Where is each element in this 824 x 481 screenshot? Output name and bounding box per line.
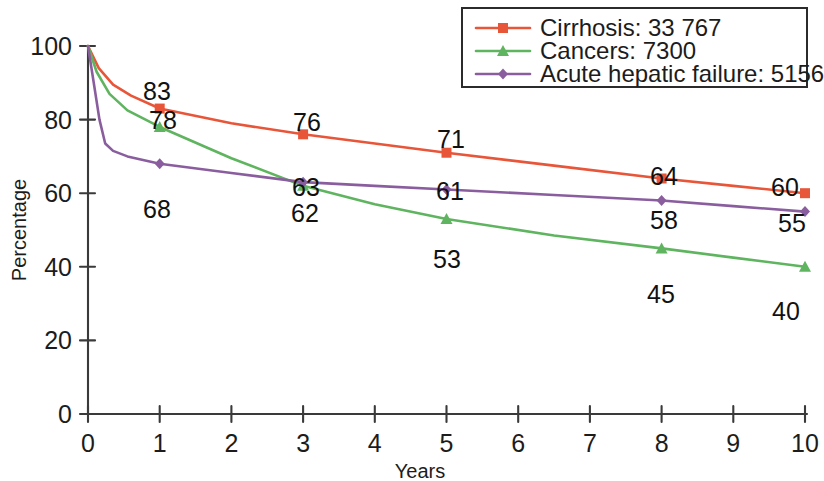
x-tick-label: 0 bbox=[81, 429, 95, 457]
data-label-ahf-1: 68 bbox=[143, 195, 171, 223]
chart-legend: Cirrhosis: 33 767Cancers: 7300Acute hepa… bbox=[462, 8, 824, 87]
data-label-cancers-10: 40 bbox=[772, 297, 800, 325]
chart-figure: 020406080100 Percentage 012345678910 Yea… bbox=[0, 0, 824, 481]
x-axis-title: Years bbox=[395, 460, 445, 481]
series-marker-diamond bbox=[155, 158, 165, 169]
data-label-ahf-10: 55 bbox=[778, 209, 806, 237]
y-tick-label: 100 bbox=[30, 32, 72, 60]
x-tick-label: 7 bbox=[583, 429, 597, 457]
data-label-cancers-3: 62 bbox=[291, 199, 319, 227]
x-tick-label: 10 bbox=[791, 429, 819, 457]
series-marker-square bbox=[498, 23, 508, 33]
data-label-cirrhosis-3: 76 bbox=[293, 108, 321, 136]
x-tick-label: 4 bbox=[368, 429, 382, 457]
data-label-cancers-5: 53 bbox=[433, 245, 461, 273]
data-label-cirrhosis-10: 60 bbox=[771, 173, 799, 201]
y-axis-group: 020406080100 Percentage bbox=[8, 32, 95, 428]
series-marker-square bbox=[800, 188, 810, 198]
x-tick-label: 5 bbox=[440, 429, 454, 457]
x-tick-label: 9 bbox=[726, 429, 740, 457]
data-label-layer: 837671646078625345406863615855 bbox=[143, 77, 806, 325]
data-label-ahf-3: 63 bbox=[292, 173, 320, 201]
y-tick-label: 40 bbox=[44, 253, 72, 281]
data-label-ahf-8: 58 bbox=[650, 206, 678, 234]
data-label-cirrhosis-5: 71 bbox=[437, 125, 465, 153]
x-tick-label: 1 bbox=[153, 429, 167, 457]
x-axis-group: 012345678910 Years bbox=[81, 406, 819, 481]
data-label-cancers-1: 78 bbox=[149, 106, 177, 134]
data-label-ahf-5: 61 bbox=[436, 177, 464, 205]
y-tick-label: 60 bbox=[44, 179, 72, 207]
x-tick-label: 6 bbox=[511, 429, 525, 457]
data-label-cirrhosis-1: 83 bbox=[143, 77, 171, 105]
y-axis-title: Percentage bbox=[8, 179, 30, 281]
x-tick-label: 3 bbox=[296, 429, 310, 457]
data-label-cirrhosis-8: 64 bbox=[650, 162, 678, 190]
series-marker-diamond bbox=[657, 195, 667, 206]
x-tick-label: 2 bbox=[224, 429, 238, 457]
survival-curve-chart: 020406080100 Percentage 012345678910 Yea… bbox=[0, 0, 824, 481]
y-tick-label: 20 bbox=[44, 326, 72, 354]
y-tick-label: 0 bbox=[58, 400, 72, 428]
legend-item-label: Acute hepatic failure: 5156 bbox=[540, 60, 824, 87]
y-axis-ticks: 020406080100 bbox=[30, 32, 95, 428]
x-tick-label: 8 bbox=[655, 429, 669, 457]
data-label-cancers-8: 45 bbox=[647, 280, 675, 308]
y-tick-label: 80 bbox=[44, 106, 72, 134]
